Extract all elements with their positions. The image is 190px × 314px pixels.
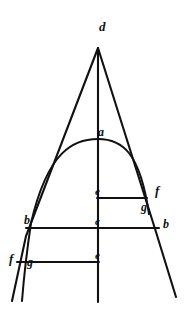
label-b-left: b [24,214,30,226]
triangle-right-side [98,48,176,297]
label-f-right-upper: f [155,184,159,197]
geometric-figure: d a e f g b c b f g e [0,0,190,314]
label-d-apex: d [99,20,106,33]
label-b-right: b [163,218,169,230]
label-c-center: c [95,216,100,227]
label-f-left-lower: f [9,252,13,265]
label-e-upper-axis: e [95,186,100,197]
label-g-right-lower: g [141,201,147,213]
label-g-left-lower: g [27,256,33,268]
label-e-lower-axis: e [95,250,100,261]
label-a-vertex: a [98,126,104,138]
